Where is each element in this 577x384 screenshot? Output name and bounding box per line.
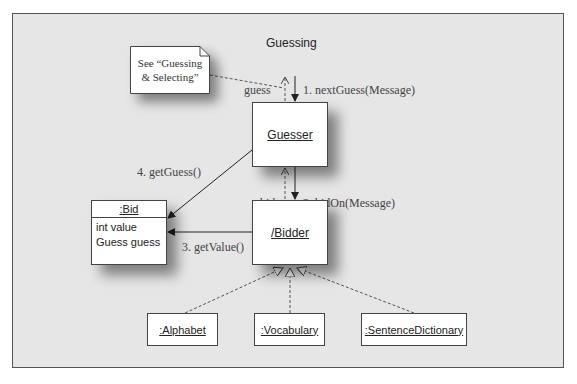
bid-header: :Bid bbox=[92, 201, 166, 218]
bid-attribute: Guess guess bbox=[96, 235, 162, 250]
guesser-object[interactable]: Guesser bbox=[252, 102, 328, 167]
alphabet-object[interactable]: :Alphabet bbox=[147, 313, 218, 346]
message-4-label: 4. getGuess() bbox=[137, 165, 201, 180]
sentence-dictionary-name: :SentenceDictionary bbox=[365, 324, 463, 336]
bidder-name: /Bidder bbox=[271, 226, 309, 240]
bid-attributes: int value Guess guess bbox=[92, 218, 166, 252]
note: See “Guessing & Selecting” bbox=[130, 46, 210, 94]
vocabulary-name: :Vocabulary bbox=[261, 324, 318, 336]
guesser-name: Guesser bbox=[267, 128, 312, 142]
bid-attribute: int value bbox=[96, 220, 162, 235]
note-line-1: See “Guessing bbox=[130, 56, 210, 70]
diagram-title: Guessing bbox=[266, 36, 317, 50]
note-line-2: & Selecting” bbox=[130, 70, 210, 84]
return-guess-label: guess bbox=[244, 83, 271, 98]
alphabet-name: :Alphabet bbox=[159, 324, 205, 336]
sentence-dictionary-object[interactable]: :SentenceDictionary bbox=[361, 313, 467, 346]
bid-object[interactable]: :Bid int value Guess guess bbox=[91, 200, 167, 265]
vocabulary-object[interactable]: :Vocabulary bbox=[254, 313, 325, 346]
bid-name: :Bid bbox=[120, 203, 139, 215]
message-1-label: 1. nextGuess(Message) bbox=[303, 83, 415, 98]
message-3-label: 3. getValue() bbox=[182, 240, 244, 255]
note-text: See “Guessing & Selecting” bbox=[130, 56, 210, 84]
bidder-object[interactable]: /Bidder bbox=[252, 200, 328, 265]
